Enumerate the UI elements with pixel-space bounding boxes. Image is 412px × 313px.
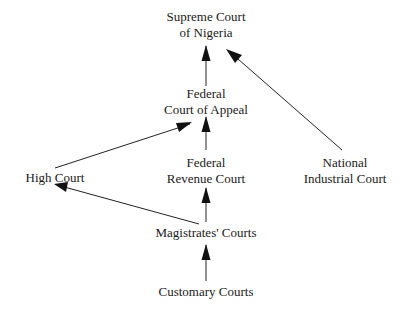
node-customary-courts: Customary Courts: [159, 284, 254, 300]
arrowhead-icon: [202, 116, 211, 132]
node-supreme-court: Supreme Court of Nigeria: [166, 9, 245, 41]
node-federal-revenue-court: Federal Revenue Court: [167, 155, 245, 187]
node-label-line1: Federal: [167, 155, 245, 171]
node-federal-court-of-appeal: Federal Court of Appeal: [164, 86, 248, 118]
arrowhead-icon: [202, 244, 211, 260]
node-label-line1: Federal: [164, 86, 248, 102]
edge-magistrates-to-high: [57, 185, 199, 224]
node-label-line1: Magistrates' Courts: [156, 225, 257, 241]
node-label-line1: High Court: [26, 170, 85, 186]
arrowhead-icon: [176, 122, 192, 132]
node-label-line2: Court of Appeal: [164, 102, 248, 118]
node-label-line1: Supreme Court: [166, 9, 245, 25]
arrowhead-icon: [202, 187, 211, 203]
node-label-line2: of Nigeria: [166, 25, 245, 41]
arrowhead-icon: [202, 45, 211, 61]
node-label-line2: Revenue Court: [167, 171, 245, 187]
node-label-line2: Industrial Court: [304, 171, 387, 187]
node-magistrates-courts: Magistrates' Courts: [156, 225, 257, 241]
node-label-line1: National: [304, 155, 387, 171]
node-high-court: High Court: [26, 170, 85, 186]
node-national-industrial-court: National Industrial Court: [304, 155, 387, 187]
node-label-line1: Customary Courts: [159, 284, 254, 300]
